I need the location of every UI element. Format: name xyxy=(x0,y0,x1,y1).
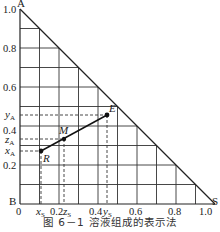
point-M xyxy=(62,137,66,141)
vertex-s-label: S xyxy=(212,196,218,207)
x-a-label: xA xyxy=(5,145,15,160)
y-a-label: yA xyxy=(5,109,15,124)
point-r-label: R xyxy=(43,153,50,164)
figure-caption: 图 6－1 溶液组成的表示法 xyxy=(0,214,220,229)
y-tick-1-0: 1.0 xyxy=(3,4,16,15)
vertex-a-label: A xyxy=(17,0,25,9)
diagram-canvas xyxy=(0,0,220,232)
tie-line xyxy=(39,113,110,154)
point-m-label: M xyxy=(59,125,68,136)
y-tick-0-8: 0.8 xyxy=(3,43,16,54)
y-tick-0-2: 0.2 xyxy=(3,160,16,171)
point-e-label: E xyxy=(109,103,116,114)
ternary-diagram: A B S 1.0 0.8 0.6 0.4 0.2 yA zA xA 0 xS … xyxy=(0,0,220,232)
y-tick-0-6: 0.6 xyxy=(3,82,16,93)
